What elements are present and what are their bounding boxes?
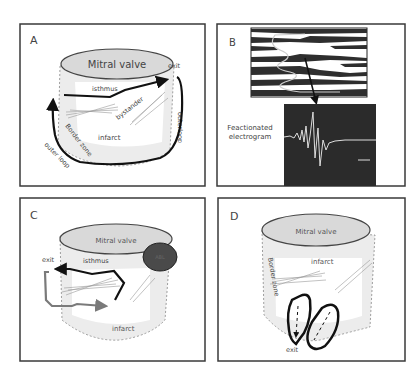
electrogram-label-line1: Feactionated (227, 124, 272, 132)
electrogram-label-line2: electrogram (229, 133, 272, 141)
panel-a: A Mitral valve exit isthmus bystander ou… (20, 24, 205, 186)
ablation-label: ABL (155, 254, 165, 260)
panel-d-letter: D (230, 210, 238, 223)
infarct-label: infarct (98, 134, 121, 142)
isthmus-label: isthmus (83, 257, 109, 265)
valve-label: Mitral valve (296, 228, 337, 236)
panel-b-letter: B (229, 37, 236, 48)
exit-label: exit (168, 62, 181, 70)
panel-b: B Feactionated electrogram (217, 24, 405, 186)
exit-label: exit (286, 346, 299, 354)
panel-a-letter: A (30, 34, 38, 47)
panel-c: C Mitral valve ABL exit isthmus infarct (20, 198, 205, 361)
figure: A Mitral valve exit isthmus bystander ou… (0, 0, 418, 368)
exit-label: exit (42, 256, 55, 264)
tissue-histology (251, 28, 367, 97)
panel-d: D Mitral valve infarct Border zone exit (218, 198, 405, 361)
isthmus-label: isthmus (92, 85, 118, 93)
valve-label: Mitral valve (88, 59, 146, 70)
infarct-label: infarct (112, 325, 135, 333)
panel-c-letter: C (30, 209, 38, 222)
valve-label: Mitral valve (96, 237, 137, 245)
electrogram-trace (284, 104, 376, 186)
infarct-label: infarct (311, 258, 334, 266)
